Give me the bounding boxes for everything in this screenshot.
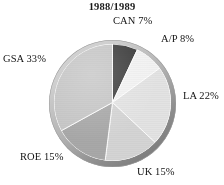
pie-face [54, 44, 171, 161]
pie-chart [49, 40, 176, 167]
slice-label-can: CAN 7% [113, 15, 152, 26]
slice-label-roe: ROE 15% [20, 151, 64, 162]
slice-label-uk: UK 15% [137, 166, 175, 177]
chart-title: 1988/1989 [0, 1, 224, 12]
slice-label-ap: A/P 8% [161, 33, 194, 44]
pie-slices-svg [54, 44, 171, 161]
pie-chart-figure: 1988/1989 CAN 7% A/P 8% LA 22% UK 15% RO… [0, 0, 224, 185]
slice-label-la: LA 22% [183, 90, 219, 101]
slice-label-gsa: GSA 33% [3, 53, 46, 64]
